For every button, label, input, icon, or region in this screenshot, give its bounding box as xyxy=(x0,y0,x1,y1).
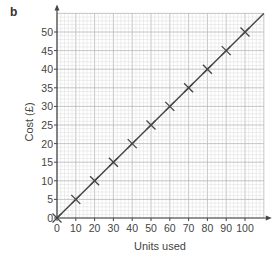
y-axis-arrow-icon xyxy=(55,4,60,10)
x-tick-label: 70 xyxy=(183,222,195,234)
x-tick-label: 20 xyxy=(89,222,101,234)
y-tick-label: 20 xyxy=(41,138,53,150)
series-line xyxy=(57,13,264,218)
y-tick-label: 45 xyxy=(41,45,53,57)
x-axis-arrow-icon xyxy=(266,216,272,221)
x-tick-label: 100 xyxy=(236,222,254,234)
x-tick-label: 10 xyxy=(70,222,82,234)
x-tick-label: 90 xyxy=(220,222,232,234)
x-axis-title: Units used xyxy=(134,240,186,252)
cost-vs-units-chart: 0102030405060708090100051015202530354045… xyxy=(0,0,277,257)
x-tick-label: 30 xyxy=(108,222,120,234)
y-tick-label: 25 xyxy=(41,119,53,131)
y-tick-label: 50 xyxy=(41,26,53,38)
x-tick-label: 50 xyxy=(145,222,157,234)
data-series xyxy=(53,13,264,222)
x-tick-label: 60 xyxy=(164,222,176,234)
y-axis-title: Cost (£) xyxy=(23,102,35,141)
y-tick-label: 35 xyxy=(41,82,53,94)
x-tick-label: 0 xyxy=(54,222,60,234)
y-tick-label: 40 xyxy=(41,63,53,75)
x-tick-label: 80 xyxy=(202,222,214,234)
y-tick-label: 15 xyxy=(41,156,53,168)
x-tick-label: 40 xyxy=(126,222,138,234)
y-tick-label: 5 xyxy=(47,193,53,205)
y-tick-label: 10 xyxy=(41,175,53,187)
y-tick-label: 30 xyxy=(41,100,53,112)
